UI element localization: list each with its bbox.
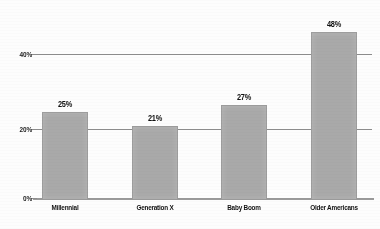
- bar-value-baby-boom: 27%: [225, 92, 263, 102]
- bar-value-older-americans: 48%: [315, 19, 353, 29]
- plot-area: 40% 20% 0% 25% 21% 27% 48% Millennial Ge…: [0, 0, 380, 229]
- bar-baby-boom: [221, 105, 267, 199]
- category-label-generation-x: Generation X: [117, 203, 193, 212]
- bar-value-millennial: 25%: [46, 99, 84, 109]
- category-label-older-americans: Older Americans: [296, 203, 372, 212]
- ytick-label-40: 40%: [0, 50, 32, 59]
- bar-chart: 40% 20% 0% 25% 21% 27% 48% Millennial Ge…: [0, 0, 380, 229]
- ytick-label-20: 20%: [0, 125, 32, 134]
- category-label-millennial: Millennial: [27, 203, 103, 212]
- category-label-baby-boom: Baby Boom: [206, 203, 282, 212]
- bar-millennial: [42, 112, 88, 199]
- bar-value-generation-x: 21%: [136, 113, 174, 123]
- bar-older-americans: [311, 32, 357, 199]
- bar-generation-x: [132, 126, 178, 199]
- ytick-label-0: 0%: [0, 194, 32, 203]
